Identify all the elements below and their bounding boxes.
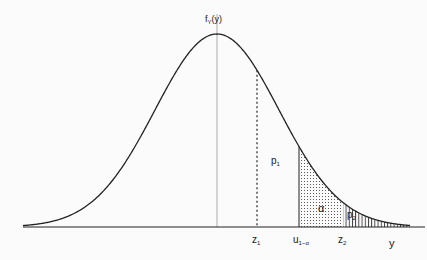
density-curve <box>23 34 410 226</box>
u-label: u1−α <box>293 235 309 246</box>
y-axis-label: fY(y) <box>205 15 222 25</box>
figure: fY(y) p1 α p2 z1 u1−α z2 y <box>0 0 427 260</box>
z2-label: z2 <box>338 235 346 246</box>
bell-curve-diagram <box>0 0 427 260</box>
x-axis-label: y <box>389 238 395 249</box>
p1-label: p1 <box>271 156 280 167</box>
p2-label: p2 <box>347 210 356 221</box>
z1-label: z1 <box>252 235 260 246</box>
alpha-label: α <box>318 203 324 214</box>
